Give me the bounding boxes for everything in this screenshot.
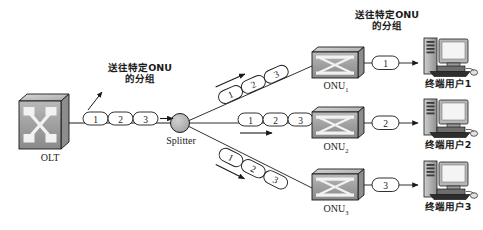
packet-label: 3: [383, 181, 388, 191]
packet-label: 2: [118, 115, 123, 125]
splitter-circle-icon: [171, 114, 190, 133]
onu3-label-subscript: 3: [345, 209, 348, 216]
pon-diagram-canvas: 1 2 3 1 2 3 1 2 3: [0, 0, 483, 230]
onu1-switch-icon: [312, 47, 364, 78]
onu1-label-text: ONU: [324, 80, 346, 91]
packet-train-branch-mid: 1 2 3: [238, 113, 313, 133]
packet-label: 2: [383, 119, 388, 129]
packet-label: 1: [93, 115, 98, 125]
user2-desktop-computer-icon: [424, 99, 478, 138]
splitter-label: Splitter: [159, 135, 203, 146]
packet-label: 1: [383, 59, 388, 69]
olt-label: OLT: [29, 152, 71, 163]
onu2-label-text: ONU: [324, 141, 346, 152]
link-splitter-to-onu3: [188, 126, 312, 188]
onu1-label: ONU1: [316, 80, 356, 93]
onu3-label: ONU3: [316, 203, 356, 216]
packet-train-branch-up: 1 2 3: [214, 57, 290, 105]
packet-drop-2: 2: [372, 116, 399, 130]
right-annotation: 送往特定ONU 的分组: [345, 10, 429, 31]
onu3-label-text: ONU: [324, 203, 346, 214]
diagram-vector-layer: 1 2 3 1 2 3 1 2 3: [0, 0, 483, 230]
user2-label: 终端用户2: [419, 140, 477, 151]
user3-label: 终端用户3: [419, 202, 477, 213]
left-annotation: 送往特定ONU 的分组: [98, 63, 182, 84]
packet-label: 2: [273, 116, 278, 126]
packet-label: 3: [143, 115, 148, 125]
onu1-label-subscript: 1: [345, 86, 348, 93]
packet-label: 3: [298, 116, 303, 126]
user1-label: 终端用户1: [419, 79, 477, 90]
packet-drop-3: 3: [372, 178, 399, 192]
user3-desktop-computer-icon: [424, 161, 478, 200]
left-annotation-line2: 的分组: [98, 74, 182, 85]
packet-label: 1: [248, 116, 253, 126]
olt-switch-icon: [19, 94, 69, 149]
onu2-switch-icon: [312, 107, 364, 138]
user1-desktop-computer-icon: [424, 38, 478, 77]
onu2-label-subscript: 2: [345, 147, 348, 154]
packet-drop-1: 1: [372, 56, 399, 70]
onu2-label: ONU2: [316, 141, 356, 154]
left-annotation-pointer-icon: [88, 92, 102, 110]
right-annotation-line2: 的分组: [345, 21, 429, 32]
onu3-switch-icon: [312, 169, 364, 200]
